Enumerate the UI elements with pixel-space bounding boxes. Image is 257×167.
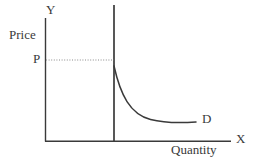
supply-demand-diagram <box>0 0 257 167</box>
price-level-label: P <box>33 52 40 65</box>
demand-curve-label: D <box>202 112 211 125</box>
x-axis-name-label: Quantity <box>171 143 217 156</box>
x-axis-tip-label: X <box>236 132 245 145</box>
figure-canvas: Y Price P D X Quantity <box>0 0 257 167</box>
demand-curve <box>114 66 196 123</box>
y-axis-tip-label: Y <box>46 3 55 16</box>
y-axis-name-label: Price <box>9 28 36 41</box>
